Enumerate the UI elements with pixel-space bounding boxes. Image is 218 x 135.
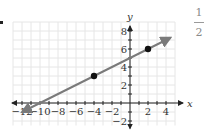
y-axis-label: y [126,11,133,22]
fraction-bar [194,22,204,23]
x-tick-label: −6 [69,106,84,117]
x-tick-label: −4 [87,106,102,117]
x-tick-label: 4 [163,106,169,117]
y-tick-label: −2 [112,116,127,127]
fraction-denominator: 2 [192,26,206,39]
y-tick-label: 4 [121,62,127,73]
x-axis-label: x [187,98,193,109]
line-graph: −12−10−8−6−4−224−22468xy [0,0,218,135]
fraction-numerator: 1 [192,6,206,19]
x-tick-label: −8 [51,106,66,117]
data-point [145,46,151,52]
data-point [91,73,97,79]
y-tick-label: 6 [121,44,127,55]
x-tick-label: 2 [145,106,151,117]
y-tick-label: 8 [121,26,127,37]
y-tick-label: 2 [121,80,127,91]
